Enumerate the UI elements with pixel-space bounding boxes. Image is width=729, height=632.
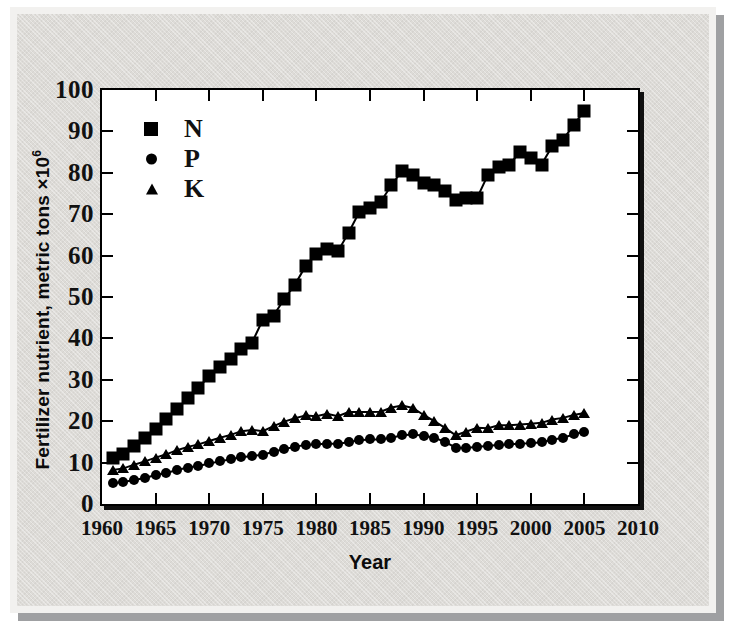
plot-wrapper: 1009080706050403020100 Fertilizer nutrie… (0, 0, 729, 632)
y-axis-tick (102, 172, 113, 174)
data-point-n (385, 179, 398, 192)
data-point-n (471, 191, 484, 204)
y-axis-tick (102, 213, 113, 215)
data-point-p (193, 461, 203, 471)
x-axis-tick-label: 2000 (510, 516, 552, 541)
x-axis-tick (369, 493, 371, 504)
legend-item-p: P (142, 144, 252, 174)
x-axis-tick-top (476, 90, 478, 101)
data-point-k (578, 408, 590, 418)
data-point-p (322, 439, 332, 449)
data-point-p (215, 456, 225, 466)
y-axis-tick-label: 60 (48, 242, 94, 270)
y-axis-tick-right (627, 296, 638, 298)
x-axis-tick-label: 1970 (188, 516, 230, 541)
y-axis-tick-right (627, 462, 638, 464)
data-point-n (567, 119, 580, 132)
y-axis-tick-right (627, 172, 638, 174)
data-point-p (311, 439, 321, 449)
x-axis-tick-top (155, 90, 157, 101)
data-point-p (483, 441, 493, 451)
y-axis-tick-label: 20 (48, 407, 94, 435)
data-point-p (258, 450, 268, 460)
y-axis-tick (102, 130, 113, 132)
data-point-p (451, 443, 461, 453)
x-axis-tick-top (423, 90, 425, 101)
x-axis-tick (476, 493, 478, 504)
y-axis-tick-label: 0 (48, 490, 94, 518)
x-axis-tick-label: 1960 (81, 516, 123, 541)
x-axis-tick-label: 1980 (295, 516, 337, 541)
x-axis-tick-label: 1990 (403, 516, 445, 541)
data-point-p (579, 427, 589, 437)
y-axis-tick (102, 337, 113, 339)
data-point-p (386, 433, 396, 443)
y-axis-title-exponent: 6 (30, 150, 44, 157)
legend-item-n: N (142, 114, 252, 144)
x-axis-tick (208, 493, 210, 504)
data-point-p (461, 443, 471, 453)
y-axis-tick (102, 420, 113, 422)
data-point-p (279, 444, 289, 454)
data-point-p (547, 435, 557, 445)
x-axis-tick-top (583, 90, 585, 101)
data-point-p (515, 439, 525, 449)
x-axis-tick-label: 1985 (349, 516, 391, 541)
x-axis-tick (262, 493, 264, 504)
x-axis-tick-top (369, 90, 371, 101)
x-axis-tick-top (530, 90, 532, 101)
data-point-n (299, 259, 312, 272)
data-point-n (578, 104, 591, 117)
x-axis-tick-top (208, 90, 210, 101)
data-point-n (288, 278, 301, 291)
y-axis-tick-right (627, 379, 638, 381)
data-point-p (269, 447, 279, 457)
data-point-p (140, 473, 150, 483)
data-point-p (419, 431, 429, 441)
y-axis-title-text: Fertilizer nutrient, metric tons ×10 (32, 157, 53, 470)
y-axis-tick (102, 379, 113, 381)
y-axis-tick (102, 462, 113, 464)
data-point-p (376, 434, 386, 444)
data-point-n (535, 158, 548, 171)
data-point-p (526, 438, 536, 448)
y-axis-title: Fertilizer nutrient, metric tons ×106 (30, 100, 53, 520)
data-point-n (192, 382, 205, 395)
triangle-icon (146, 184, 158, 195)
legend-item-k: K (142, 174, 252, 204)
data-point-p (301, 440, 311, 450)
data-point-p (161, 468, 171, 478)
data-point-n (503, 158, 516, 171)
legend-label-n: N (184, 114, 203, 144)
x-axis-tick-top (262, 90, 264, 101)
figure-root: 1009080706050403020100 Fertilizer nutrie… (0, 0, 729, 632)
data-point-p (558, 433, 568, 443)
data-point-n (246, 336, 259, 349)
data-point-p (172, 465, 182, 475)
x-axis-tick-top (315, 90, 317, 101)
x-axis-tick (155, 493, 157, 504)
y-axis-tick-right (627, 420, 638, 422)
data-point-p (408, 429, 418, 439)
data-point-p (118, 477, 128, 487)
data-point-p (504, 439, 514, 449)
data-point-p (183, 463, 193, 473)
data-point-n (267, 309, 280, 322)
data-point-p (344, 437, 354, 447)
square-icon (144, 122, 158, 136)
x-axis-tick-label: 1965 (135, 516, 177, 541)
data-point-p (472, 442, 482, 452)
data-point-p (290, 442, 300, 452)
data-point-p (354, 435, 364, 445)
data-point-p (204, 458, 214, 468)
y-axis-tick-right (627, 130, 638, 132)
x-axis-tick (530, 493, 532, 504)
data-point-n (556, 133, 569, 146)
data-point-p (151, 470, 161, 480)
x-axis-tick-labels: 1960196519701975198019851990199520002005… (0, 516, 729, 550)
plot-area: N P K (102, 90, 638, 504)
x-axis-tick (583, 493, 585, 504)
x-axis-tick-label: 1995 (456, 516, 498, 541)
data-point-p (397, 430, 407, 440)
x-axis-tick (315, 493, 317, 504)
